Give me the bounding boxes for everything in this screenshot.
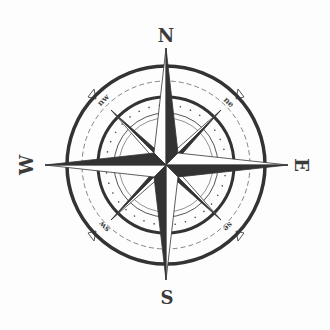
label-east: E [291, 158, 312, 172]
label-west: W [16, 154, 37, 176]
cardinal-points [45, 48, 288, 280]
label-north: N [158, 25, 174, 46]
label-ne: ne [222, 94, 237, 109]
label-se: se [221, 220, 235, 234]
label-sw: sw [96, 219, 112, 235]
compass-rose-canvas: nw ne se sw N S E W [0, 0, 330, 330]
label-south: S [161, 287, 174, 308]
compass-rose: nw ne se sw N S E W [0, 0, 330, 330]
